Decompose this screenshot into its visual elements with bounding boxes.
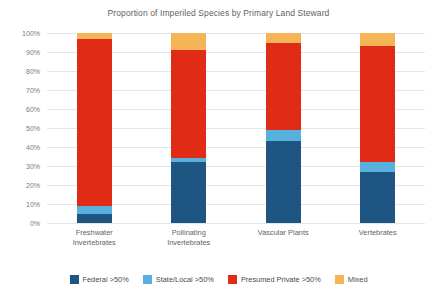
y-axis-tick-label: 40% [0, 144, 40, 151]
y-axis-tick-label: 70% [0, 87, 40, 94]
bar-segment[interactable] [77, 206, 112, 214]
y-axis-tick-label: 10% [0, 201, 40, 208]
y-axis-tick-label: 90% [0, 49, 40, 56]
y-axis-tick-label: 30% [0, 163, 40, 170]
legend-label: Federal >50% [83, 275, 129, 284]
bar-series [47, 33, 425, 223]
x-axis-label-line: Pollinating [139, 228, 239, 238]
x-axis-label-line: Invertebrates [44, 238, 144, 248]
bar-column[interactable] [77, 33, 112, 223]
y-axis-tick-label: 0% [0, 220, 40, 227]
chart-title: Proportion of Imperiled Species by Prima… [0, 8, 437, 18]
legend-swatch-icon [335, 275, 344, 284]
x-axis-label-line: Vascular Plants [233, 228, 333, 238]
bar-segment[interactable] [266, 141, 301, 223]
bar-segment[interactable] [77, 33, 112, 39]
bar-segment[interactable] [360, 46, 395, 162]
y-axis-tick-label: 80% [0, 68, 40, 75]
legend-item[interactable]: Federal >50% [70, 275, 129, 284]
bar-segment[interactable] [360, 172, 395, 223]
bar-column[interactable] [171, 33, 206, 223]
bar-segment[interactable] [266, 130, 301, 141]
bar-column[interactable] [360, 33, 395, 223]
legend-item[interactable]: Presumed Private >50% [228, 275, 321, 284]
chart-container: Proportion of Imperiled Species by Prima… [0, 0, 437, 300]
bar-segment[interactable] [77, 39, 112, 206]
gridline [47, 223, 425, 224]
legend-item[interactable]: State/Local >50% [143, 275, 214, 284]
legend-item[interactable]: Mixed [335, 275, 368, 284]
legend-label: Presumed Private >50% [241, 275, 321, 284]
x-axis-tick-label: Vascular Plants [233, 228, 333, 238]
bar-segment[interactable] [171, 50, 206, 158]
x-axis-label-line: Vertebrates [328, 228, 428, 238]
bar-segment[interactable] [360, 162, 395, 172]
legend-label: Mixed [348, 275, 368, 284]
y-axis-tick-label: 60% [0, 106, 40, 113]
x-axis-tick-label: FreshwaterInvertebrates [44, 228, 144, 248]
y-axis-tick-label: 20% [0, 182, 40, 189]
x-axis-label-line: Invertebrates [139, 238, 239, 248]
bar-segment[interactable] [266, 33, 301, 43]
x-axis-tick-label: PollinatingInvertebrates [139, 228, 239, 248]
x-axis-labels: FreshwaterInvertebratesPollinatingInvert… [47, 228, 425, 262]
x-axis-tick-label: Vertebrates [328, 228, 428, 238]
bar-segment[interactable] [171, 158, 206, 162]
y-axis-tick-label: 50% [0, 125, 40, 132]
y-axis-labels: 0%10%20%30%40%50%60%70%80%90%100% [0, 0, 45, 300]
x-axis-label-line: Freshwater [44, 228, 144, 238]
legend-swatch-icon [70, 275, 79, 284]
bar-segment[interactable] [360, 33, 395, 46]
legend-label: State/Local >50% [156, 275, 214, 284]
bar-segment[interactable] [171, 162, 206, 223]
bar-segment[interactable] [266, 43, 301, 130]
chart-legend: Federal >50%State/Local >50%Presumed Pri… [0, 268, 437, 290]
legend-swatch-icon [228, 275, 237, 284]
y-axis-tick-label: 100% [0, 30, 40, 37]
legend-swatch-icon [143, 275, 152, 284]
bar-column[interactable] [266, 33, 301, 223]
bar-segment[interactable] [77, 214, 112, 224]
bar-segment[interactable] [171, 33, 206, 50]
plot-area [47, 33, 425, 223]
